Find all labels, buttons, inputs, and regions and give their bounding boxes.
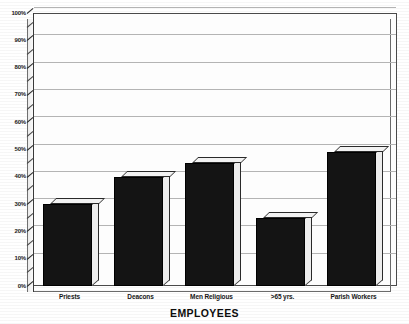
x-axis-title: EMPLOYEES bbox=[0, 307, 409, 319]
y-axis-line-front bbox=[33, 13, 34, 292]
bar-front-face bbox=[43, 204, 92, 286]
bar-chart: 0%10%20%30%40%50%60%70%80%90%100% Priest… bbox=[0, 0, 409, 324]
bar-front-face bbox=[256, 218, 305, 286]
gridline bbox=[34, 144, 396, 145]
y-axis-tick-label: 50% bbox=[2, 146, 26, 153]
y-axis-spine bbox=[27, 13, 35, 292]
y-axis-tick-labels: 0%10%20%30%40%50%60%70%80%90%100% bbox=[0, 0, 26, 324]
gridline bbox=[34, 89, 396, 90]
bar bbox=[327, 146, 376, 286]
bar-side-face bbox=[305, 212, 312, 286]
y-axis-tick-label: 80% bbox=[2, 64, 26, 71]
y-axis-tick-label: 100% bbox=[2, 10, 26, 17]
gridline bbox=[34, 62, 396, 63]
y-axis-line-back bbox=[27, 19, 28, 292]
y-axis-tick-label: 20% bbox=[2, 228, 26, 235]
y-axis-tick-label: 0% bbox=[2, 283, 26, 290]
bar-side-face bbox=[234, 157, 241, 286]
bar bbox=[43, 198, 92, 286]
x-axis-category-label: Parish Workers bbox=[312, 293, 395, 301]
bar-side-face bbox=[376, 146, 383, 286]
bar-front-face bbox=[327, 152, 376, 286]
bar bbox=[114, 171, 163, 286]
bar-side-face bbox=[163, 171, 170, 286]
y-axis-tick-label: 70% bbox=[2, 91, 26, 98]
y-axis-tick-label: 30% bbox=[2, 201, 26, 208]
y-axis-tick-label: 90% bbox=[2, 37, 26, 44]
gridline bbox=[34, 116, 396, 117]
bar-front-face bbox=[114, 177, 163, 286]
y-axis-tick-label: 60% bbox=[2, 119, 26, 126]
bar-side-face bbox=[92, 198, 99, 286]
bar bbox=[185, 157, 234, 286]
gridline bbox=[34, 7, 396, 8]
y-axis-tick-label: 10% bbox=[2, 255, 26, 262]
y-axis-tick-label: 40% bbox=[2, 173, 26, 180]
gridline bbox=[34, 34, 396, 35]
bar bbox=[256, 212, 305, 286]
bar-front-face bbox=[185, 163, 234, 286]
